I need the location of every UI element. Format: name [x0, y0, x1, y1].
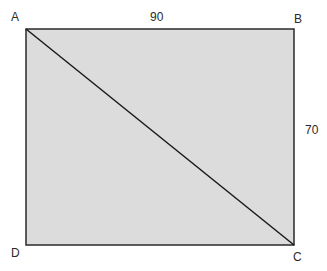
- rectangle-diagram: A B C D 90 70: [0, 0, 327, 271]
- dimension-top-ab: 90: [150, 10, 164, 24]
- vertex-label-d: D: [11, 246, 20, 260]
- vertex-label-b: B: [294, 12, 302, 26]
- dimension-right-bc: 70: [305, 123, 319, 137]
- vertex-label-a: A: [11, 10, 19, 24]
- vertex-label-c: C: [293, 250, 302, 264]
